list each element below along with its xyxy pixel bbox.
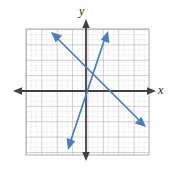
- y-axis-top-arrowhead: [82, 19, 89, 28]
- x-axis-label: x: [158, 84, 163, 96]
- coordinate-plane-figure: y x: [0, 0, 173, 173]
- x-axis-right-arrowhead: [147, 87, 156, 94]
- y-axis-label: y: [79, 5, 84, 17]
- y-axis-bottom-arrowhead: [82, 152, 89, 161]
- x-axis-left-arrowhead: [13, 87, 22, 94]
- graph-canvas: [0, 0, 173, 173]
